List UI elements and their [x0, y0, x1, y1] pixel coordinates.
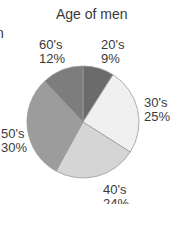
slice-label-60s-pct: 12% [39, 52, 65, 66]
slice-label-60s-name: 60's [39, 38, 65, 52]
slice-label-60s: 60's 12% [39, 38, 65, 66]
slice-label-20s: 20's 9% [101, 38, 124, 66]
slice-label-20s-name: 20's [101, 38, 124, 52]
slice-label-30s-name: 30's [144, 96, 170, 110]
slice-label-30s: 30's 25% [144, 96, 170, 124]
slice-label-50s: 50's 30% [1, 127, 27, 155]
slice-label-50s-name: 50's [1, 127, 27, 141]
slice-label-40s-pct: 24% [103, 197, 129, 204]
pie-slices [27, 66, 139, 178]
slice-label-50s-pct: 30% [1, 141, 27, 155]
slice-label-30s-pct: 25% [144, 110, 170, 124]
slice-label-20s-pct: 9% [101, 52, 124, 66]
slice-label-40s-name: 40's [103, 183, 129, 197]
slice-label-40s: 40's 24% [103, 183, 129, 204]
